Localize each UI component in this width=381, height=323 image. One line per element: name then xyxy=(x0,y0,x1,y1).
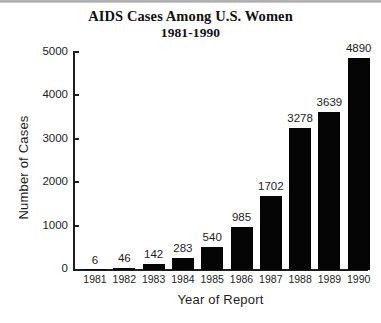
y-axis-tick-labels: 010002000300040005000 xyxy=(28,0,68,323)
x-axis-tick-label-1989: 1989 xyxy=(314,274,344,285)
bar-1988 xyxy=(289,128,311,270)
x-axis-tick-label-1981: 1981 xyxy=(80,274,110,285)
bar-1981 xyxy=(84,269,106,270)
bar-value-label-1990: 4890 xyxy=(336,43,381,55)
x-axis-tick-label-1983: 1983 xyxy=(139,274,169,285)
bar-value-label-1985: 540 xyxy=(189,232,235,244)
x-axis-tick-label-1982: 1982 xyxy=(109,274,139,285)
x-axis-tick-label-1988: 1988 xyxy=(285,274,315,285)
x-axis-tick-label-1984: 1984 xyxy=(168,274,198,285)
bar-1989 xyxy=(318,112,340,270)
bar-value-label-1984: 283 xyxy=(160,243,206,255)
y-axis-tick-label: 0 xyxy=(32,263,68,275)
bar-1982 xyxy=(113,268,135,270)
x-axis-tick-label-1990: 1990 xyxy=(344,274,374,285)
bar-value-label-1989: 3639 xyxy=(306,97,352,109)
bar-value-label-1987: 1702 xyxy=(248,181,294,193)
bar-1983 xyxy=(143,264,165,270)
y-axis-tick-label: 4000 xyxy=(32,89,68,101)
x-axis-tick-label-1986: 1986 xyxy=(227,274,257,285)
y-axis-tick-label: 3000 xyxy=(32,133,68,145)
bar-value-label-1988: 3278 xyxy=(277,113,323,125)
y-axis-tick-label: 1000 xyxy=(32,220,68,232)
y-axis-tick-label: 5000 xyxy=(32,46,68,58)
x-axis-tick-label-1985: 1985 xyxy=(197,274,227,285)
y-axis-tick-label: 2000 xyxy=(32,176,68,188)
x-axis-title: Year of Report xyxy=(73,292,368,307)
x-axis-tick-label-1987: 1987 xyxy=(256,274,286,285)
bar-1987 xyxy=(260,196,282,270)
bar-1990 xyxy=(348,58,370,270)
bar-value-label-1986: 985 xyxy=(219,212,265,224)
